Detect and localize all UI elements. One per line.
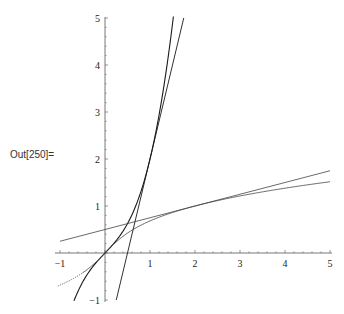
x-tick-label: 2 [193,258,198,269]
y-tick-label: −1 [89,295,100,306]
curve-inverse [83,182,331,273]
x-tick-label: −1 [55,258,66,269]
y-tick-label: 1 [95,201,100,212]
tangent-line-inverse [60,171,330,242]
y-tick-label: 5 [95,13,100,24]
curve-f [74,17,173,301]
x-tick-label: 1 [148,258,153,269]
x-tick-label: 5 [328,258,333,269]
plot-area: −112345−112345 [0,0,344,314]
curve-inverse-dotted [58,273,83,286]
y-tick-label: 3 [95,107,100,118]
y-tick-label: 2 [95,154,100,165]
x-tick-label: 4 [283,258,288,269]
y-tick-label: 4 [95,60,100,71]
x-tick-label: 3 [238,258,243,269]
